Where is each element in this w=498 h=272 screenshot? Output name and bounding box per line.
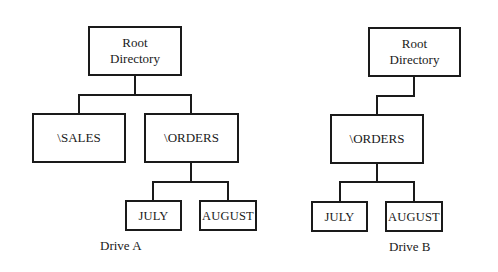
- node-label: JULY: [138, 208, 168, 224]
- drive-a-root-directory: Root Directory: [88, 26, 182, 76]
- node-label: \ORDERS: [350, 131, 405, 147]
- connector: [376, 164, 378, 182]
- drive-a-orders-folder: \ORDERS: [144, 113, 239, 163]
- connector: [413, 77, 415, 96]
- node-label: AUGUST: [202, 208, 254, 224]
- drive-a-caption: Drive A: [100, 238, 142, 254]
- connector: [152, 181, 154, 200]
- drive-b-root-directory: Root Directory: [368, 27, 461, 77]
- drive-b-caption: Drive B: [389, 239, 431, 255]
- drive-b-august-folder: AUGUST: [385, 201, 443, 232]
- node-label: \ORDERS: [164, 130, 219, 146]
- connector: [190, 163, 192, 182]
- drive-b-orders-folder: \ORDERS: [330, 114, 424, 164]
- drive-a-august-folder: AUGUST: [199, 200, 257, 231]
- node-label: AUGUST: [388, 209, 440, 225]
- connector: [413, 181, 415, 201]
- node-label: Root Directory: [110, 35, 160, 67]
- drive-a-july-folder: JULY: [125, 200, 182, 231]
- connector: [227, 181, 229, 200]
- connector: [78, 94, 192, 96]
- drive-a-sales-folder: \SALES: [32, 113, 126, 163]
- node-label: JULY: [324, 209, 354, 225]
- connector: [339, 181, 341, 201]
- node-label: \SALES: [57, 130, 100, 146]
- connector: [376, 95, 378, 114]
- connector: [134, 76, 136, 95]
- connector: [376, 95, 415, 97]
- node-label: Root Directory: [390, 36, 440, 68]
- connector: [152, 181, 228, 183]
- connector: [78, 94, 80, 113]
- connector: [339, 181, 415, 183]
- drive-b-july-folder: JULY: [311, 201, 368, 232]
- connector: [190, 94, 192, 113]
